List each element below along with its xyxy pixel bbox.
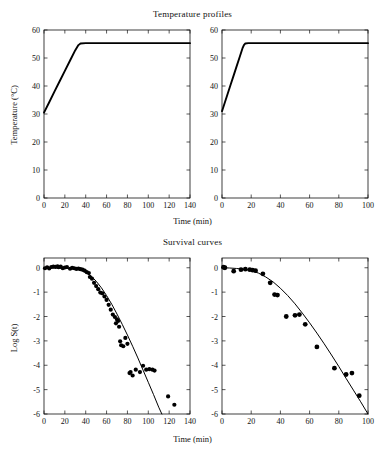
y-tick-label: 60: [32, 26, 40, 35]
data-point: [297, 312, 302, 317]
y-tick-label: 0: [36, 264, 40, 273]
data-point: [109, 308, 113, 312]
x-tick-label: 0: [220, 201, 224, 210]
x-tick-label: 40: [82, 201, 90, 210]
x-tick-label: 120: [163, 201, 175, 210]
data-point: [332, 366, 337, 371]
x-tick-label: 40: [276, 201, 284, 210]
x-tick-label: 100: [362, 201, 374, 210]
data-point: [231, 269, 236, 274]
x-tick-label: 0: [42, 417, 46, 426]
y-tick-label: -2: [33, 313, 40, 322]
survival-x-axis-label: Time (min): [0, 434, 385, 444]
y-tick-label: 40: [32, 82, 40, 91]
data-point: [131, 373, 135, 377]
plot-frame: [222, 258, 368, 414]
x-tick-label: 60: [103, 201, 111, 210]
survival-y-axis-label: Log S(t): [9, 310, 19, 366]
data-point: [303, 322, 308, 327]
data-point: [138, 370, 142, 374]
data-point: [123, 336, 127, 340]
y-tick-label: 20: [210, 138, 218, 147]
x-tick-label: 40: [82, 417, 90, 426]
data-point: [172, 403, 176, 407]
data-series-line: [222, 43, 368, 111]
x-tick-label: 140: [184, 417, 196, 426]
x-tick-label: 40: [276, 417, 284, 426]
figure-container: Temperature profiles Survival curves Tim…: [0, 0, 385, 454]
data-point: [350, 371, 355, 376]
data-point: [117, 325, 121, 329]
data-point: [284, 314, 289, 319]
x-tick-label: 100: [142, 201, 154, 210]
y-tick-label: -2: [211, 313, 218, 322]
plot-temperature-left: 0204060801001201400102030405060: [44, 30, 190, 198]
data-point: [121, 344, 125, 348]
data-series-line: [222, 268, 368, 414]
data-point: [275, 293, 280, 298]
y-tick-label: -5: [33, 386, 40, 395]
x-tick-label: 100: [142, 417, 154, 426]
data-point: [166, 394, 170, 398]
y-tick-label: -1: [211, 288, 218, 297]
y-tick-label: -3: [33, 337, 40, 346]
data-point: [315, 345, 320, 350]
x-tick-label: 0: [220, 417, 224, 426]
y-tick-label: 0: [36, 194, 40, 203]
y-tick-label: -1: [33, 288, 40, 297]
y-tick-label: -3: [211, 337, 218, 346]
data-point: [118, 339, 122, 343]
y-tick-label: 0: [214, 264, 218, 273]
y-tick-label: -6: [211, 410, 218, 419]
y-tick-label: 50: [210, 54, 218, 63]
temperature-y-axis-label: Temperature (°C): [9, 75, 19, 155]
y-tick-label: -6: [33, 410, 40, 419]
data-point: [134, 368, 138, 372]
data-point: [107, 303, 111, 307]
x-tick-label: 60: [103, 417, 111, 426]
x-tick-label: 20: [61, 201, 69, 210]
x-tick-label: 0: [42, 201, 46, 210]
survival-panel-title: Survival curves: [0, 237, 385, 247]
y-tick-label: -4: [33, 361, 40, 370]
x-tick-label: 80: [335, 201, 343, 210]
y-tick-label: 50: [32, 54, 40, 63]
y-tick-label: 10: [32, 166, 40, 175]
x-tick-label: 60: [306, 201, 314, 210]
data-point: [125, 342, 129, 346]
y-tick-label: 20: [32, 138, 40, 147]
data-point: [239, 267, 244, 272]
x-tick-label: 140: [184, 201, 196, 210]
data-series-line: [44, 268, 162, 414]
y-tick-label: -4: [211, 361, 218, 370]
x-tick-label: 80: [335, 417, 343, 426]
data-point: [152, 369, 156, 373]
plot-frame: [44, 30, 190, 198]
y-tick-label: 30: [32, 110, 40, 119]
data-point: [293, 313, 298, 318]
x-tick-label: 120: [163, 417, 175, 426]
y-tick-label: 60: [210, 26, 218, 35]
data-series-line: [44, 43, 190, 112]
x-tick-label: 80: [123, 417, 131, 426]
plot-temperature-right: 0204060801000102030405060: [222, 30, 368, 198]
x-tick-label: 20: [61, 417, 69, 426]
temperature-x-axis-label: Time (min): [0, 216, 385, 226]
y-tick-label: -5: [211, 386, 218, 395]
x-tick-label: 20: [247, 417, 255, 426]
y-tick-label: 0: [214, 194, 218, 203]
plot-frame: [44, 258, 190, 414]
temperature-panel-title: Temperature profiles: [0, 9, 385, 19]
x-tick-label: 60: [306, 417, 314, 426]
x-tick-label: 80: [123, 201, 131, 210]
y-tick-label: 10: [210, 166, 218, 175]
plot-survival-right: 0204060801000-1-2-3-4-5-6: [222, 258, 368, 414]
y-tick-label: 40: [210, 82, 218, 91]
plot-survival-left: 0204060801001201400-1-2-3-4-5-6: [44, 258, 190, 414]
plot-frame: [222, 30, 368, 198]
x-tick-label: 100: [362, 417, 374, 426]
x-tick-label: 20: [247, 201, 255, 210]
y-tick-label: 30: [210, 110, 218, 119]
